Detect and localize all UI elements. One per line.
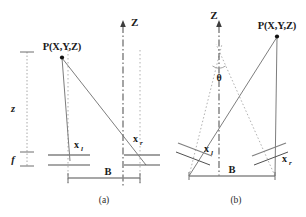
point-label-p: P(X,Y,Z) [43,41,82,53]
point-label-p: P(X,Y,Z) [258,20,297,32]
stereo-geometry-figure: z f Z P(X,Y,Z) [0,0,306,217]
image-point-right-subscript: r [140,139,143,147]
ray-to-right-image [275,37,277,176]
vergence-angle-label-theta: θ [216,72,221,83]
image-point-left-label: x [204,143,209,154]
point-marker-p [60,55,64,59]
point-marker-p [275,34,279,38]
ray-to-left-image [189,37,277,176]
caption-panel-a: (a) [99,195,110,206]
image-point-right-label: x [282,153,287,164]
z-axis-arrowhead [120,20,126,27]
image-point-right-subscript: r [289,159,292,167]
projection-rays-b [189,37,277,176]
optical-axis-a: Z [120,16,138,186]
scene-point-a: P(X,Y,Z) [43,41,82,60]
z-axis-arrowhead [216,20,222,27]
depth-ruler-a: z f [10,52,34,166]
ray-to-left-image [62,58,70,161]
panel-a: z f Z P(X,Y,Z) [10,16,160,206]
depth-label-z: z [10,103,16,114]
image-plane-right-bar-top [252,143,286,156]
image-plane-right-b: x r [252,143,292,167]
panel-b: Z θ P(X,Y,Z) x l [176,9,297,206]
figure-canvas: z f Z P(X,Y,Z) [0,0,306,217]
z-axis-label: Z [131,16,138,28]
caption-panel-b: (b) [230,195,241,206]
focal-label-f: f [11,154,16,165]
camera-right-optical-axis [216,44,275,176]
image-point-left-subscript: l [211,149,213,157]
baseline-label-b: B [228,164,235,175]
scene-point-b: P(X,Y,Z) [258,20,297,39]
camera-left-optical-axis [189,44,222,176]
baseline-b: B [189,164,275,180]
baseline-a: B [68,166,140,183]
image-point-left-label: x [74,139,79,150]
image-point-right-label: x [133,133,138,144]
baseline-label-b: B [104,166,111,177]
z-axis-label: Z [210,9,217,21]
image-point-left-subscript: l [81,145,83,153]
